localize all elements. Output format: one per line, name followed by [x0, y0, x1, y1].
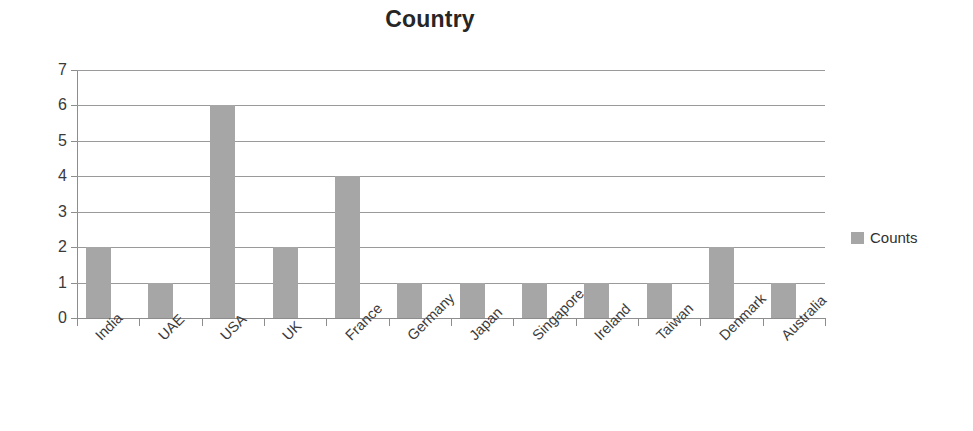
x-tick-mark-3: [264, 319, 265, 326]
legend-label-counts: Counts: [870, 229, 918, 246]
plot-area: [77, 70, 825, 318]
y-tick-label-6: 6: [37, 96, 67, 114]
bar-france[interactable]: [335, 176, 360, 318]
chart-legend: Counts: [851, 229, 918, 246]
x-tick-mark-5: [389, 319, 390, 326]
bar-usa[interactable]: [210, 105, 235, 318]
x-tick-mark-12: [825, 319, 826, 326]
x-tick-mark-10: [700, 319, 701, 326]
y-tick-label-5: 5: [37, 132, 67, 150]
x-tick-mark-2: [202, 319, 203, 326]
x-tick-mark-6: [451, 319, 452, 326]
x-tick-mark-1: [139, 319, 140, 326]
bar-chart: Country 7 6 5 4 3 2 1 0 IndiaUAEUSAUKFra…: [0, 0, 973, 431]
bar-uk[interactable]: [273, 247, 298, 318]
bar-uae[interactable]: [148, 283, 173, 318]
bar-australia[interactable]: [771, 283, 796, 318]
bar-india[interactable]: [86, 247, 111, 318]
x-tick-mark-7: [513, 319, 514, 326]
y-tick-label-2: 2: [37, 238, 67, 256]
gridline-y-5: [77, 141, 825, 142]
bar-taiwan[interactable]: [647, 283, 672, 318]
chart-title: Country: [0, 6, 860, 33]
gridline-y-4: [77, 176, 825, 177]
y-tick-label-3: 3: [37, 203, 67, 221]
x-label-uk: UK: [279, 318, 305, 344]
x-tick-mark-4: [326, 319, 327, 326]
y-tick-label-4: 4: [37, 167, 67, 185]
gridline-y-6: [77, 105, 825, 106]
x-tick-mark-11: [763, 319, 764, 326]
y-tick-label-7: 7: [37, 61, 67, 79]
bar-germany[interactable]: [397, 283, 422, 318]
gridline-y-3: [77, 212, 825, 213]
gridline-y-7: [77, 70, 825, 71]
legend-swatch-counts: [851, 232, 864, 244]
bar-singapore[interactable]: [522, 283, 547, 318]
x-tick-mark-9: [638, 319, 639, 326]
bar-ireland[interactable]: [584, 283, 609, 318]
x-tick-mark-8: [576, 319, 577, 326]
y-axis-tick-labels: 7 6 5 4 3 2 1 0: [10, 0, 67, 431]
bar-denmark[interactable]: [709, 247, 734, 318]
x-tick-mark-0: [77, 319, 78, 326]
bar-japan[interactable]: [460, 283, 485, 318]
y-tick-label-0: 0: [37, 309, 67, 327]
y-tick-label-1: 1: [37, 274, 67, 292]
